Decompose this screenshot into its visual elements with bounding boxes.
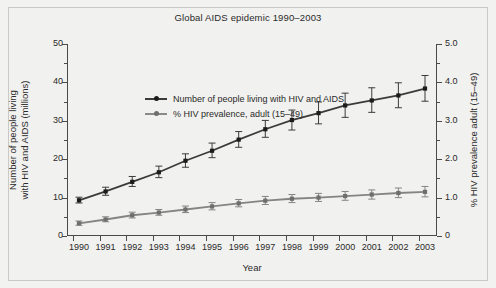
y-axis-left-tick-label: 10 xyxy=(23,192,63,202)
y-axis-right-tick-label: 0 xyxy=(445,230,485,240)
y-axis-right-title-text: % HIV prevalence adult (15–49) xyxy=(468,73,479,208)
y-axis-right-tick xyxy=(437,236,442,237)
y-axis-left-title-line1: Number of people living xyxy=(7,90,18,190)
data-point xyxy=(423,86,427,90)
y-axis-right-tick-label: 2.0 xyxy=(445,153,485,163)
data-point xyxy=(77,198,81,202)
legend-marker-series1 xyxy=(145,94,167,103)
legend-item-0[interactable]: Number of people living with HIV and AID… xyxy=(145,92,344,105)
data-point xyxy=(130,213,134,217)
data-point xyxy=(210,204,214,208)
x-axis-tick xyxy=(153,236,154,241)
x-axis-tick xyxy=(286,236,287,241)
chart-legend: Number of people living with HIV and AID… xyxy=(145,92,344,122)
y-axis-right-minor-tick xyxy=(437,102,440,103)
x-axis-tick xyxy=(206,236,207,241)
x-axis-tick xyxy=(126,236,127,241)
x-axis-tick xyxy=(100,236,101,241)
data-point xyxy=(370,98,374,102)
y-axis-right-tick-label: 5.0 xyxy=(445,38,485,48)
data-point xyxy=(210,149,214,153)
data-point xyxy=(263,127,267,131)
x-axis-title: Year xyxy=(67,262,437,273)
y-axis-right-minor-tick xyxy=(437,140,440,141)
data-point xyxy=(157,210,161,214)
data-point xyxy=(77,221,81,225)
series-2 xyxy=(76,186,429,225)
data-point xyxy=(396,191,400,195)
x-axis-tick xyxy=(419,236,420,241)
y-axis-right-tick xyxy=(437,198,442,199)
data-point xyxy=(343,194,347,198)
data-point xyxy=(290,197,294,201)
x-axis-tick xyxy=(313,236,314,241)
y-axis-left-tick-label: 50 xyxy=(23,38,63,48)
data-point xyxy=(183,207,187,211)
x-axis-tick xyxy=(233,236,234,241)
data-point xyxy=(316,196,320,200)
plot-area: 01020304050 01.02.03.04.05.0 19901991199… xyxy=(67,44,437,236)
y-axis-right-tick xyxy=(437,159,442,160)
y-axis-right-minor-tick xyxy=(437,217,440,218)
x-axis-tick xyxy=(73,236,74,241)
y-axis-left-tick-label: 20 xyxy=(23,153,63,163)
y-axis-right-tick-label: 1.0 xyxy=(445,192,485,202)
data-point xyxy=(370,192,374,196)
y-axis-right-tick xyxy=(437,82,442,83)
data-point xyxy=(104,189,108,193)
data-point xyxy=(157,170,161,174)
data-point xyxy=(183,159,187,163)
data-point xyxy=(237,201,241,205)
legend-marker-series2 xyxy=(145,109,167,118)
series-layer xyxy=(67,44,437,236)
y-axis-right-tick-label: 3.0 xyxy=(445,115,485,125)
y-axis-right-minor-tick xyxy=(437,63,440,64)
y-axis-right-tick xyxy=(437,121,442,122)
legend-label-series1: Number of people living with HIV and AID… xyxy=(173,94,344,104)
y-axis-right-tick-label: 4.0 xyxy=(445,76,485,86)
x-axis-tick xyxy=(179,236,180,241)
x-axis-tick-label: 2003 xyxy=(405,242,445,252)
y-axis-right-minor-tick xyxy=(437,178,440,179)
x-axis-tick xyxy=(366,236,367,241)
legend-label-series2: % HIV prevalence, adult (15–49) xyxy=(173,109,303,119)
data-point xyxy=(396,93,400,97)
y-axis-left-tick-label: 40 xyxy=(23,76,63,86)
x-axis-tick xyxy=(339,236,340,241)
x-axis-tick xyxy=(392,236,393,241)
y-axis-left-tick-label: 0 xyxy=(23,230,63,240)
legend-item-1[interactable]: % HIV prevalence, adult (15–49) xyxy=(145,107,344,120)
y-axis-left-title-line2: with HIV and AIDS (millions) xyxy=(19,81,30,200)
data-point xyxy=(237,138,241,142)
chart-title: Global AIDS epidemic 1990–2003 xyxy=(0,12,496,23)
y-axis-right-title: % HIV prevalence adult (15–49) xyxy=(466,44,480,236)
chart-figure: Global AIDS epidemic 1990–2003 Number of… xyxy=(0,0,496,288)
y-axis-right-tick xyxy=(437,44,442,45)
data-point xyxy=(104,217,108,221)
data-point xyxy=(423,190,427,194)
y-axis-left-title: Number of people living with HIV and AID… xyxy=(12,44,26,236)
y-axis-left-tick-label: 30 xyxy=(23,115,63,125)
x-axis-tick xyxy=(259,236,260,241)
data-point xyxy=(130,180,134,184)
data-point xyxy=(263,199,267,203)
